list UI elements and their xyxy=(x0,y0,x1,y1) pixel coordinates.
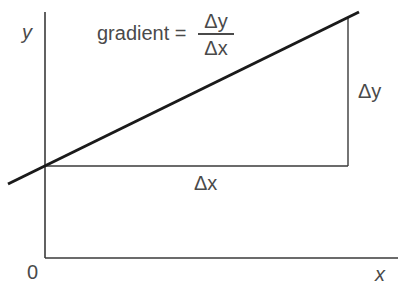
formula-lhs: gradient = xyxy=(97,23,187,43)
delta-y-label: Δy xyxy=(358,81,381,101)
x-axis-label: x xyxy=(375,264,385,284)
fraction-numerator: Δy xyxy=(204,11,227,33)
y-axis-label: y xyxy=(22,22,32,42)
origin-label: 0 xyxy=(27,262,38,282)
fraction-denominator: Δx xyxy=(204,35,227,58)
gradient-fraction: Δy Δx xyxy=(198,11,234,58)
delta-x-label: Δx xyxy=(194,173,217,193)
